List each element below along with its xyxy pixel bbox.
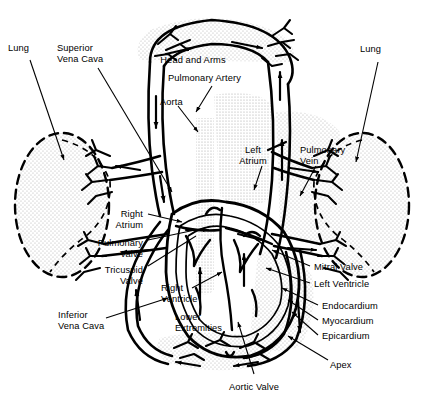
label-pulmonary-vein: Pulmonary Vein [300,145,345,166]
label-aortic-valve: Aortic Valve [204,382,304,393]
circulatory-system-diagram: Lung Superior Vena Cava Head and Arms Pu… [0,0,424,402]
label-lung-right: Lung [360,44,381,55]
label-aorta: Aorta [160,97,183,108]
label-left-atrium: Left Atrium [223,145,283,166]
label-right-ventricle: Right Ventricle [161,283,198,304]
label-pulmonary-artery: Pulmonary Artery [168,73,241,84]
label-mitral-valve: Mitral Valve [314,262,363,273]
label-right-atrium: Right Atrium [63,209,143,230]
label-pulmonary-valve: Pulmonary Valve [48,238,143,259]
label-head-and-arms: Head and Arms [133,55,253,66]
label-lung-left: Lung [8,43,29,54]
label-endocardium: Endocardium [322,301,378,312]
label-myocardium: Myocardium [322,316,374,327]
label-lower-extremities: Lower Extremities [175,312,222,333]
label-apex: Apex [330,360,352,371]
label-left-ventricle: Left Ventricle [314,279,369,290]
label-tricuspid-valve: Tricuspid Valve [53,265,143,286]
label-epicardium: Epicardium [322,331,370,342]
label-superior-vena-cava: Superior Vena Cava [57,43,103,64]
label-inferior-vena-cava: Inferior Vena Cava [58,310,104,331]
